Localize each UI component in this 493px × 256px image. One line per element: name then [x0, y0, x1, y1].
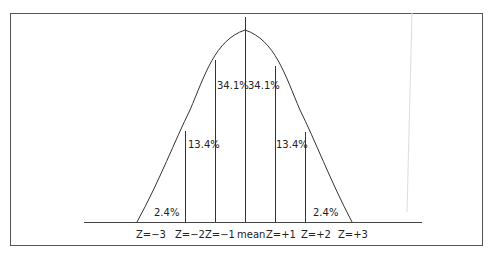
pct-left-tail: 2.4%	[154, 207, 179, 218]
pct-right-tail: 2.4%	[313, 207, 338, 218]
pct-left-center: 34.1%	[217, 80, 249, 91]
pct-right-mid: 13.4%	[276, 139, 308, 150]
pct-right-center: 34.1%	[248, 80, 280, 91]
axis-label-z-plus-2: Z=+2	[301, 229, 331, 240]
axis-label-mean: mean	[237, 229, 265, 240]
axis-label-z-minus-3: Z=−3	[136, 229, 166, 240]
axis-label-z-minus-1: Z=−1	[205, 229, 235, 240]
scan-artifact-line	[407, 13, 412, 212]
axis-label-z-minus-2: Z=−2	[175, 229, 205, 240]
bell-curve-diagram: 2.4% 13.4% 34.1% 34.1% 13.4% 2.4% Z=−3 Z…	[0, 0, 493, 256]
axis-label-z-plus-3: Z=+3	[338, 229, 368, 240]
bell-curve	[137, 30, 352, 222]
pct-left-mid: 13.4%	[188, 139, 220, 150]
axis-label-z-plus-1: Z=+1	[266, 229, 296, 240]
diagram-frame	[11, 14, 483, 246]
